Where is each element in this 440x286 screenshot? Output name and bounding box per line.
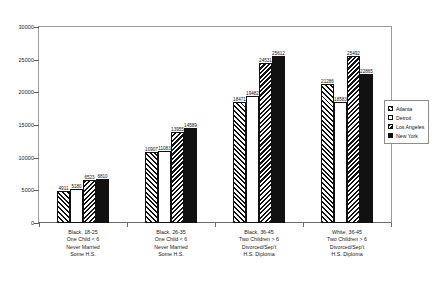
- bar-slot: 10907: [145, 27, 158, 223]
- bar-slot: 6523: [83, 27, 96, 223]
- category-label-line: Never Married: [41, 244, 125, 251]
- legend-swatch-icon: [388, 133, 393, 138]
- category-label-line: Divorced/Sep't: [217, 244, 301, 251]
- category-label: Black, 26-35One Child < 6Never MarriedSo…: [127, 229, 215, 259]
- bar-slot: 18583: [334, 27, 347, 223]
- bar-slot: 11083: [158, 27, 171, 223]
- legend-swatch-icon: [388, 115, 393, 120]
- bar-value-label: 11083: [158, 146, 170, 151]
- bar-slot: 5180: [70, 27, 83, 223]
- bar-slot: 25492: [347, 27, 360, 223]
- chart-legend: AtlantaDetroitLos AngelesNew York: [384, 100, 429, 144]
- category-label-line: Two Children > 6: [305, 236, 389, 243]
- bar[interactable]: 10907: [145, 152, 158, 223]
- category-labels: Black, 18-25One Child < 6Never MarriedSo…: [39, 229, 391, 259]
- category-label-line: One Child < 6: [129, 236, 213, 243]
- legend-item[interactable]: New York: [388, 131, 424, 140]
- bar-value-label: 22865: [360, 69, 373, 74]
- y-axis-tick-label: 5000: [0, 187, 38, 193]
- legend-item[interactable]: Detroit: [388, 113, 424, 122]
- bar-chart: 300002500020000150001000050000 491151806…: [0, 0, 440, 286]
- bar[interactable]: 21286: [321, 84, 334, 223]
- bar[interactable]: 13955: [171, 132, 184, 223]
- bar-value-label: 4911: [59, 186, 69, 191]
- legend-label: New York: [396, 133, 418, 139]
- bar-slot: 6810: [96, 27, 109, 223]
- x-axis-tick-mark: [215, 223, 216, 227]
- bar-slot: 19482: [246, 27, 259, 223]
- bar[interactable]: 25492: [347, 56, 360, 223]
- x-axis-tick-mark: [391, 223, 392, 227]
- bar[interactable]: 18471: [233, 102, 246, 223]
- bar[interactable]: 19482: [246, 96, 259, 223]
- bar-slot: 18471: [233, 27, 246, 223]
- legend-label: Atlanta: [396, 106, 412, 112]
- legend-swatch-icon: [388, 124, 393, 129]
- bar-groups: 4911518065236810109071108313955145891847…: [39, 27, 391, 223]
- legend-item[interactable]: Atlanta: [388, 104, 424, 113]
- bar[interactable]: 11083: [158, 151, 171, 223]
- category-label-line: One Child < 6: [41, 236, 125, 243]
- bar-group: 4911518065236810: [39, 27, 127, 223]
- legend-item[interactable]: Los Angeles: [388, 122, 424, 131]
- bar[interactable]: 4911: [57, 191, 70, 223]
- y-axis-tick-label: 10000: [0, 155, 38, 161]
- x-axis-tick-mark: [127, 223, 128, 227]
- bar-value-label: 21286: [321, 79, 334, 84]
- y-axis-tick-label: 20000: [0, 89, 38, 95]
- bar-slot: 14589: [184, 27, 197, 223]
- category-label-line: Black, 26-35: [129, 229, 213, 236]
- bar-value-label: 6523: [84, 175, 94, 180]
- y-axis-tick-label: 15000: [0, 122, 38, 128]
- category-label: Black, 36-45Two Children > 6Divorced/Sep…: [215, 229, 303, 259]
- category-label-line: Never Married: [129, 244, 213, 251]
- bar-slot: 22865: [360, 27, 373, 223]
- bar-value-label: 24531: [259, 58, 272, 63]
- bar-value-label: 6810: [97, 174, 107, 179]
- category-label-line: Black, 36-45: [217, 229, 301, 236]
- bar[interactable]: 14589: [184, 128, 197, 223]
- bar[interactable]: 25612: [272, 56, 285, 223]
- bar-slot: 25612: [272, 27, 285, 223]
- bar-value-label: 25492: [347, 51, 360, 56]
- category-label-line: Black, 18-25: [41, 229, 125, 236]
- y-axis-tick-label: 30000: [0, 24, 38, 30]
- bar-value-label: 19482: [246, 91, 259, 96]
- y-axis-tick-label: 0: [0, 220, 38, 226]
- bar-slot: 21286: [321, 27, 334, 223]
- bar[interactable]: 18583: [334, 102, 347, 223]
- category-label-line: Some H.S.: [41, 251, 125, 258]
- category-label: Black, 18-25One Child < 6Never MarriedSo…: [39, 229, 127, 259]
- category-label-line: H.S. Diploma: [217, 251, 301, 258]
- bar-slot: 13955: [171, 27, 184, 223]
- bar[interactable]: 22865: [360, 74, 373, 223]
- bar-slot: 24531: [259, 27, 272, 223]
- legend-label: Detroit: [396, 115, 411, 121]
- category-label-line: Two Children > 6: [217, 236, 301, 243]
- bar[interactable]: 24531: [259, 63, 272, 223]
- bar-value-label: 14589: [184, 123, 197, 128]
- bar-value-label: 5180: [71, 184, 81, 189]
- bar-group: 18471194822453125612: [215, 27, 303, 223]
- bar[interactable]: 6810: [96, 179, 109, 223]
- category-label-line: Some H.S.: [129, 251, 213, 258]
- bar[interactable]: 5180: [70, 189, 83, 223]
- bar[interactable]: 6523: [83, 180, 96, 223]
- category-label-line: Divorced/Sep't: [305, 244, 389, 251]
- bar-group: 21286185832549222865: [303, 27, 391, 223]
- category-label-line: H.S. Diploma: [305, 251, 389, 258]
- y-axis-tick-label: 25000: [0, 57, 38, 63]
- bar-value-label: 25612: [272, 51, 285, 56]
- x-axis-tick-mark: [39, 223, 40, 227]
- bar-value-label: 18471: [233, 97, 246, 102]
- category-label: White, 36-45Two Children > 6Divorced/Sep…: [303, 229, 391, 259]
- bar-value-label: 10907: [145, 147, 158, 152]
- x-axis-tick-mark: [303, 223, 304, 227]
- bar-slot: 4911: [57, 27, 70, 223]
- bar-value-label: 18583: [334, 97, 347, 102]
- bar-value-label: 13955: [171, 127, 184, 132]
- legend-label: Los Angeles: [396, 124, 424, 130]
- category-label-line: White, 36-45: [305, 229, 389, 236]
- legend-swatch-icon: [388, 106, 393, 111]
- bar-group: 10907110831395514589: [127, 27, 215, 223]
